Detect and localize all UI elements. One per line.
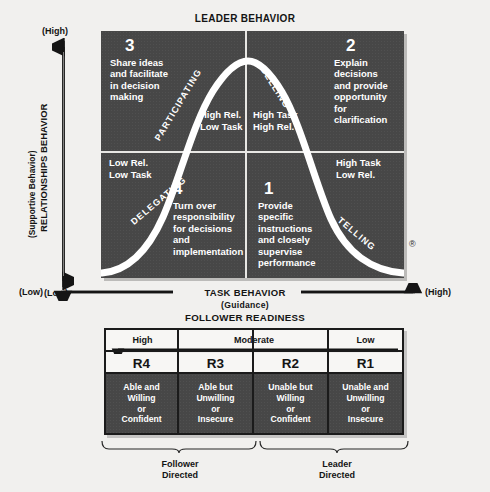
- x-axis-main-label: TASK BEHAVIOR: [0, 287, 490, 298]
- readiness-desc-r1: Unable and Unwilling or Insecure: [329, 374, 402, 433]
- readiness-desc-r1-line-4: Insecure: [348, 414, 383, 425]
- brace-leader-line-2: Directed: [297, 470, 377, 481]
- follower-readiness-table: High Moderate Low R4 R3 R2 R1 Able a: [104, 328, 404, 435]
- readiness-level-r2: R2: [254, 352, 327, 374]
- readiness-desc-r3: Able but Unwilling or Insecure: [179, 374, 252, 433]
- readiness-desc-r3-line-3: or: [211, 404, 220, 415]
- y-axis-main-label: RELATIONSHIPS BEHAVIOR: [38, 104, 49, 232]
- readiness-level-r4: R4: [106, 352, 177, 374]
- readiness-desc-r3-line-1: Able but: [198, 382, 232, 393]
- leader-behavior-title: LEADER BEHAVIOR: [0, 13, 490, 24]
- readiness-desc-r2: Unable but Willing or Confident: [254, 374, 327, 433]
- brace-leader-line-1: Leader: [297, 459, 377, 470]
- y-axis-high-label: (High): [42, 26, 68, 36]
- brace-follower-line-1: Follower: [140, 459, 220, 470]
- brace-follower-line-2: Directed: [140, 470, 220, 481]
- readiness-desc-r4-line-1: Able and: [123, 382, 159, 393]
- readiness-desc-r2-line-4: Confident: [270, 414, 310, 425]
- brace-label-follower-directed: Follower Directed: [140, 459, 220, 481]
- registered-trademark-icon: ®: [409, 239, 416, 249]
- readiness-desc-r4-line-4: Confident: [121, 414, 161, 425]
- readiness-desc-r4-line-2: Willing: [127, 393, 155, 404]
- readiness-desc-r1-line-3: or: [361, 404, 370, 415]
- readiness-desc-r1-line-2: Unwilling: [346, 393, 384, 404]
- x-axis-sub-label: (Guidance): [0, 300, 490, 310]
- readiness-desc-r2-line-1: Unable but: [268, 382, 312, 393]
- readiness-desc-r1-line-1: Unable and: [342, 382, 388, 393]
- follower-readiness-title: FOLLOWER READINESS: [0, 312, 490, 323]
- readiness-level-r1: R1: [329, 352, 402, 374]
- readiness-desc-r4-line-3: or: [137, 404, 146, 415]
- direction-braces: [100, 438, 410, 454]
- readiness-desc-r2-line-3: or: [286, 404, 295, 415]
- readiness-desc-r4: Able and Willing or Confident: [106, 374, 177, 433]
- situational-leadership-diagram: LEADER BEHAVIOR (High) (Low) RELATIONSHI…: [0, 0, 490, 492]
- brace-label-leader-directed: Leader Directed: [297, 459, 377, 481]
- readiness-desc-r3-line-4: Insecure: [198, 414, 233, 425]
- leader-behavior-grid: 3 Share ideas and facilitate in decision…: [101, 31, 404, 278]
- y-axis-sub-label: (Supportive Behavior): [27, 151, 37, 238]
- y-axis-arrow: [52, 38, 74, 290]
- readiness-desc-r2-line-2: Willing: [276, 393, 304, 404]
- readiness-level-r3: R3: [179, 352, 252, 374]
- readiness-desc-r3-line-2: Unwilling: [196, 393, 234, 404]
